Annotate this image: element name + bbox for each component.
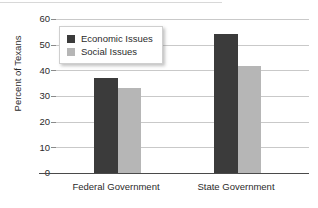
bar-federal-social[interactable] (118, 88, 141, 173)
y-tick-50-wrap: 50 (26, 40, 50, 50)
bar-state-social[interactable] (238, 66, 261, 173)
y-tick-40-wrap: 40 (26, 66, 50, 76)
x-axis-baseline (39, 173, 309, 174)
gridline-60 (56, 19, 309, 20)
legend-swatch-icon-economic (67, 35, 75, 43)
legend-label-economic: Economic Issues (81, 34, 153, 44)
y-tick-label-20: 20 (28, 117, 50, 127)
y-tick-10-wrap: 10 (26, 143, 50, 153)
y-tick-20-wrap: 20 (26, 117, 50, 127)
y-tick-label-60: 60 (28, 14, 50, 24)
x-tick-label-federal: Federal Government (62, 181, 170, 192)
legend-item-economic-issues[interactable]: Economic Issues (67, 32, 153, 45)
gridline-40 (56, 70, 309, 71)
y-tick-30-wrap: 30 (26, 91, 50, 101)
y-tick-label-40: 40 (28, 66, 50, 76)
legend-label-social: Social Issues (81, 47, 137, 57)
x-tick-label-state: State Government (186, 181, 286, 192)
legend-item-social-issues[interactable]: Social Issues (67, 45, 153, 58)
y-axis-title: Percent of Texans (12, 18, 23, 130)
bar-state-economic[interactable] (214, 34, 238, 173)
legend[interactable]: Economic Issues Social Issues (59, 26, 163, 64)
bar-federal-economic[interactable] (94, 78, 118, 173)
y-tick-label-10: 10 (28, 143, 50, 153)
y-tick-label-50: 50 (28, 40, 50, 50)
y-tick-label-30: 30 (28, 91, 50, 101)
page-scan-line (0, 2, 222, 3)
bar-chart: Percent of Texans 60 50 40 30 20 10 0 (0, 0, 318, 208)
y-tick-60-wrap: 60 (26, 14, 50, 24)
legend-swatch-icon-social (67, 48, 75, 56)
